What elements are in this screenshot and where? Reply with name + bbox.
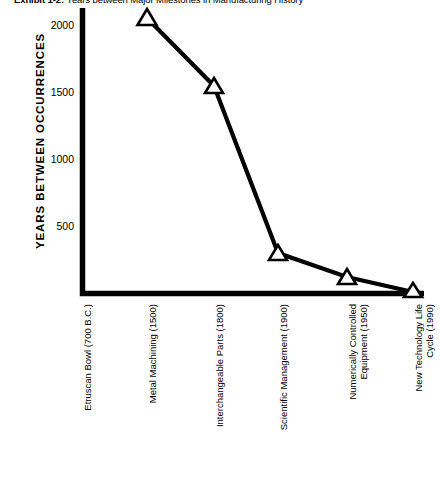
- x-tick-line-1: New Technology Life: [413, 304, 424, 392]
- data-point-marker: [269, 245, 287, 260]
- x-tick-line-2: Equipment (1950): [358, 304, 369, 475]
- x-tick-new-technology-life-cycle: New Technology Life Cycle (1990): [413, 300, 440, 475]
- x-axis-tick-labels: Etruscan Bowl (700 B.C.) Metal Machining…: [0, 300, 426, 478]
- axis-spines: [83, 8, 425, 294]
- x-tick-line-1: Numerically Controlled: [347, 304, 358, 400]
- plot-area: [0, 0, 426, 300]
- data-point-marker: [138, 9, 157, 25]
- x-tick-line-2: Cycle (1990): [424, 304, 435, 475]
